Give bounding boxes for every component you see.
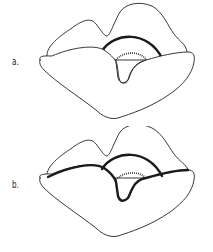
figure-b: b.: [0, 126, 213, 252]
figure-a: a.: [0, 0, 213, 126]
lip-diagram-b: [0, 126, 213, 252]
lip-diagram-a: [0, 0, 213, 126]
